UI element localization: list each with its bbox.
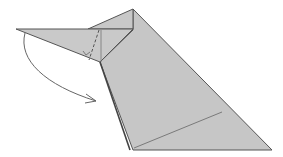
origami-diagram	[0, 0, 283, 157]
diagram-canvas	[0, 0, 283, 157]
paper-top-triangle	[88, 9, 133, 29]
arrow-head-icon	[85, 94, 96, 103]
